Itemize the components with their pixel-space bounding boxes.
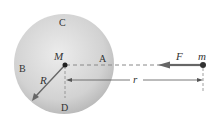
distance-label: r (133, 73, 138, 85)
point-label-b: B (19, 63, 26, 74)
distance-arrow-right-icon (197, 78, 203, 82)
force-label: F (175, 50, 183, 62)
center-dot (63, 63, 68, 68)
point-label-c: C (59, 17, 66, 28)
particle-label: m (198, 50, 206, 62)
gravity-sphere-diagram: r F m R M C B A D (0, 0, 223, 116)
force-arrowhead-icon (158, 62, 170, 69)
point-label-d: D (61, 102, 68, 113)
point-label-a: A (99, 53, 107, 64)
center-label: M (53, 50, 64, 62)
radius-label: R (39, 74, 47, 86)
particle-dot (200, 62, 206, 68)
